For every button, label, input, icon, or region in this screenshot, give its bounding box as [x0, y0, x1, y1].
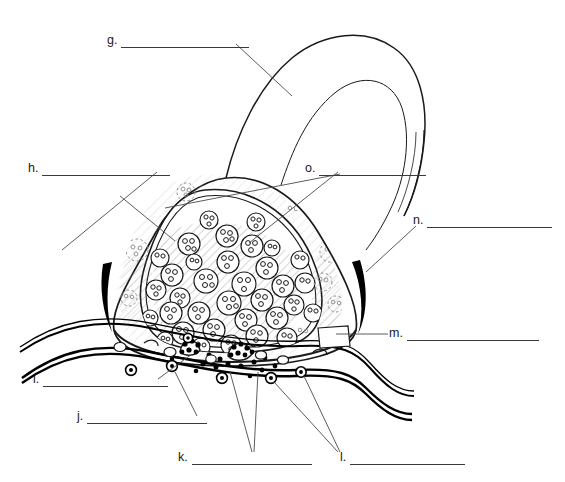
leader-k-2 — [254, 372, 258, 452]
label-m-blank[interactable] — [407, 329, 539, 341]
label-o[interactable]: o. — [305, 162, 426, 176]
label-j-blank[interactable] — [87, 412, 207, 424]
label-o-blank[interactable] — [319, 164, 426, 176]
label-j[interactable]: j. — [77, 410, 207, 424]
label-k[interactable]: k. — [178, 451, 312, 465]
label-n[interactable]: n. — [413, 214, 552, 228]
leader-l-1 — [274, 382, 338, 452]
label-g-blank[interactable] — [121, 36, 249, 48]
label-g[interactable]: g. — [107, 34, 249, 48]
leader-l-2 — [304, 376, 340, 452]
label-m[interactable]: m. — [389, 327, 539, 341]
label-i-letter: i. — [33, 373, 39, 387]
label-i[interactable]: i. — [33, 373, 168, 387]
label-o-letter: o. — [305, 162, 315, 176]
label-h-blank[interactable] — [42, 164, 170, 176]
label-g-letter: g. — [107, 34, 117, 48]
label-l-letter: l. — [340, 451, 346, 465]
membrane-notch-m — [318, 326, 350, 348]
label-j-letter: j. — [77, 410, 83, 424]
label-l-blank[interactable] — [350, 453, 465, 465]
label-i-blank[interactable] — [43, 375, 168, 387]
label-k-blank[interactable] — [192, 453, 312, 465]
label-h-letter: h. — [28, 162, 38, 176]
label-n-letter: n. — [413, 214, 423, 228]
label-k-letter: k. — [178, 451, 188, 465]
label-l[interactable]: l. — [340, 451, 465, 465]
label-h[interactable]: h. — [28, 162, 170, 176]
label-m-letter: m. — [389, 327, 403, 341]
label-n-blank[interactable] — [427, 216, 552, 228]
worksheet-page: g. h. o. n. m. i. j. k. l. — [0, 0, 565, 482]
leader-k-1 — [230, 372, 252, 452]
leader-n — [366, 226, 416, 272]
